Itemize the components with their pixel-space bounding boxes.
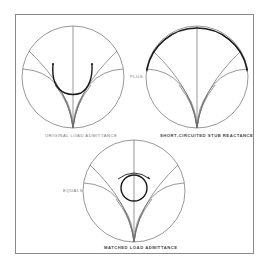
- original-load-chart: [22, 26, 124, 128]
- caption-original-load: ORIGINAL LOAD ADMITTANCE: [45, 133, 117, 138]
- stub-reactance-chart: [146, 26, 248, 128]
- equals-operator: EQUALS: [63, 188, 83, 193]
- matched-load-chart: [83, 140, 185, 242]
- caption-matched-load: MATCHED LOAD ADMITTANCE: [104, 245, 178, 250]
- caption-stub-reactance: SHORT-CIRCUITED STUB REACTANCE: [160, 133, 253, 138]
- plus-operator: PLUS: [130, 74, 143, 79]
